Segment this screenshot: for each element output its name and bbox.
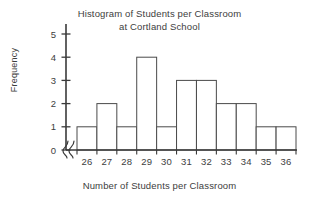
- y-tick-label-5: 5: [51, 29, 56, 40]
- plot-area: 012345 2627282930313233343536: [0, 0, 319, 202]
- bar-31: [177, 80, 197, 150]
- x-axis-label: Number of Students per Classroom: [0, 180, 319, 191]
- y-tick-label-2: 2: [51, 98, 56, 109]
- bar-27: [97, 104, 117, 150]
- bar-33: [216, 104, 236, 150]
- x-tick-label-31: 31: [181, 156, 192, 167]
- x-tick-label-36: 36: [281, 156, 292, 167]
- x-tick-label-30: 30: [161, 156, 172, 167]
- bar-26: [77, 127, 97, 150]
- y-tick-labels: 012345: [51, 29, 56, 156]
- bar-28: [117, 127, 137, 150]
- y-tick-label-4: 4: [51, 52, 56, 63]
- y-tick-label-1: 1: [51, 121, 56, 132]
- x-tick-label-28: 28: [121, 156, 132, 167]
- histogram-chart: Histogram of Students per Classroom at C…: [0, 0, 319, 202]
- bar-36: [276, 127, 296, 150]
- y-tick-label-3: 3: [51, 75, 56, 86]
- x-tick-label-34: 34: [241, 156, 252, 167]
- x-tick-label-32: 32: [201, 156, 212, 167]
- y-tick-label-0: 0: [51, 145, 56, 156]
- bar-30: [157, 127, 177, 150]
- bars-group: [77, 57, 296, 150]
- x-tick-label-33: 33: [221, 156, 232, 167]
- x-tick-labels: 2627282930313233343536: [81, 156, 291, 167]
- x-tick-label-26: 26: [81, 156, 92, 167]
- bar-34: [236, 104, 256, 150]
- x-tick-label-27: 27: [101, 156, 112, 167]
- bar-35: [256, 127, 276, 150]
- bar-29: [137, 57, 157, 150]
- x-tick-label-35: 35: [261, 156, 272, 167]
- bar-32: [196, 80, 216, 150]
- x-tick-label-29: 29: [141, 156, 152, 167]
